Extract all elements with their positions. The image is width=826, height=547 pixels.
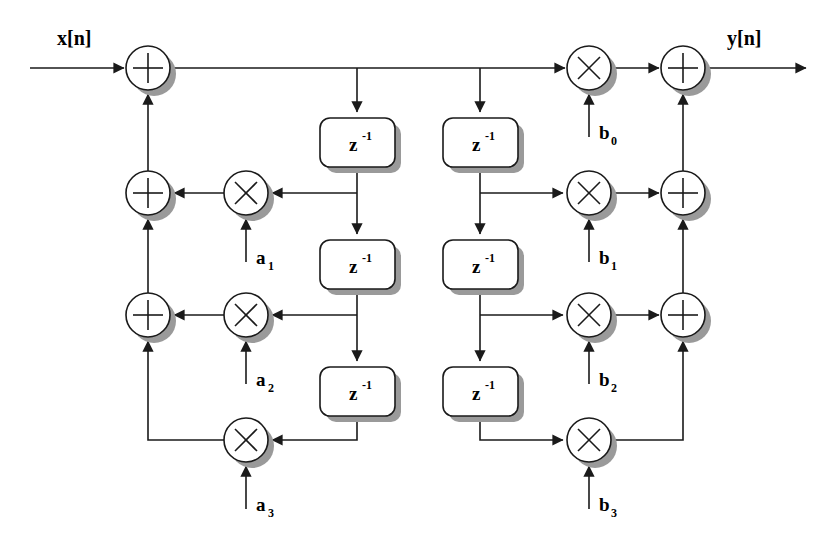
- adder-out-1[interactable]: [661, 171, 711, 221]
- delay-exponent: -1: [485, 378, 495, 392]
- coefficient-label-b1: b 1: [599, 247, 617, 273]
- delay-block-z-left-3[interactable]: z -1: [320, 367, 401, 422]
- multiplier-a3[interactable]: [224, 418, 274, 468]
- coefficient-label-b2: b 2: [599, 369, 617, 395]
- coef-subscript: 1: [611, 259, 617, 273]
- delay-label: z: [472, 256, 481, 277]
- adder-out-2[interactable]: [661, 293, 711, 343]
- delay-block-z-right-3[interactable]: z -1: [443, 367, 524, 422]
- delay-body: [443, 118, 518, 167]
- coef-subscript: 1: [268, 259, 274, 273]
- delay-label: z: [472, 383, 481, 404]
- coef-base: b: [599, 122, 610, 143]
- delay-block-z-right-1[interactable]: z -1: [443, 118, 524, 173]
- coef-subscript: 0: [611, 134, 617, 148]
- delay-body: [320, 367, 395, 416]
- multiplier-b0[interactable]: [567, 46, 617, 96]
- delay-body: [443, 240, 518, 289]
- delay-block-z-left-1[interactable]: z -1: [320, 118, 401, 173]
- coef-subscript: 2: [268, 381, 274, 395]
- delay-block-z-right-2[interactable]: z -1: [443, 240, 524, 295]
- adder-fb-2[interactable]: [126, 293, 176, 343]
- delay-label: z: [349, 134, 358, 155]
- wire-b3-to-out2: [611, 341, 683, 440]
- delay-exponent: -1: [485, 251, 495, 265]
- coef-base: a: [256, 247, 266, 268]
- delay-label: z: [349, 383, 358, 404]
- adder-nodes: [126, 46, 711, 343]
- coefficient-label-b0: b 0: [599, 122, 617, 148]
- delay-block-z-left-2[interactable]: z -1: [320, 240, 401, 295]
- coefficient-label-b3: b 3: [599, 494, 617, 520]
- multiplier-b3[interactable]: [567, 418, 617, 468]
- coef-base: b: [599, 494, 610, 515]
- delay-exponent: -1: [485, 129, 495, 143]
- adder-fb-1[interactable]: [126, 171, 176, 221]
- delay-blocks: z -1 z -1 z -1 z -1 z -1: [320, 118, 524, 422]
- coefficient-label-a3: a 3: [256, 494, 274, 520]
- multiplier-b2[interactable]: [567, 293, 617, 343]
- delay-label: z: [349, 256, 358, 277]
- coefficient-label-a1: a 1: [256, 247, 274, 273]
- delay-exponent: -1: [362, 251, 372, 265]
- adder-out-0[interactable]: [661, 46, 711, 96]
- coef-base: a: [256, 369, 266, 390]
- multiplier-a1[interactable]: [224, 171, 274, 221]
- multiplier-b1[interactable]: [567, 171, 617, 221]
- wires: [30, 68, 806, 509]
- text-labels: x[n] y[n] a 1 a 2 a 3 b 0 b 1 b 2 b 3: [57, 27, 761, 520]
- flow-graph-canvas: z -1 z -1 z -1 z -1 z -1: [0, 0, 826, 547]
- delay-exponent: -1: [362, 129, 372, 143]
- output-label: y[n]: [727, 27, 761, 50]
- delay-body: [320, 118, 395, 167]
- coef-base: a: [256, 494, 266, 515]
- coef-base: b: [599, 247, 610, 268]
- wire-a3-to-fb2: [148, 341, 224, 440]
- delay-label: z: [472, 134, 481, 155]
- delay-exponent: -1: [362, 378, 372, 392]
- input-label: x[n]: [57, 27, 91, 49]
- multiplier-nodes: [224, 46, 617, 468]
- multiplier-a2[interactable]: [224, 293, 274, 343]
- coef-subscript: 3: [611, 506, 617, 520]
- coef-subscript: 3: [268, 506, 274, 520]
- signal-flow-diagram: z -1 z -1 z -1 z -1 z -1: [0, 0, 826, 547]
- delay-body: [320, 240, 395, 289]
- adder-input[interactable]: [126, 46, 176, 96]
- delay-body: [443, 367, 518, 416]
- coefficient-label-a2: a 2: [256, 369, 274, 395]
- coef-subscript: 2: [611, 381, 617, 395]
- coef-base: b: [599, 369, 610, 390]
